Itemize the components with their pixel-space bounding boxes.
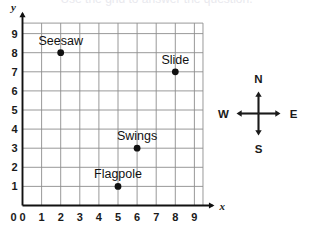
x-tick-labels: 0123456789 xyxy=(19,211,197,223)
compass-east-label: E xyxy=(290,108,298,120)
y-tick-label: 9 xyxy=(11,28,17,40)
x-tick-label: 2 xyxy=(58,211,64,223)
data-point-marker xyxy=(134,145,141,152)
compass-north-arrowhead xyxy=(255,92,261,97)
x-axis-label: x xyxy=(218,200,225,212)
compass-west-arrowhead xyxy=(237,110,242,116)
x-tick-label: 1 xyxy=(39,211,45,223)
y-tick-label: 0 xyxy=(10,211,16,223)
compass-south-arrowhead xyxy=(255,130,261,135)
x-tick-label: 0 xyxy=(19,211,25,223)
point-label: Slide xyxy=(161,53,189,67)
x-tick-label: 9 xyxy=(191,211,197,223)
y-tick-label: 7 xyxy=(11,66,17,78)
y-tick-label: 5 xyxy=(11,104,17,116)
y-tick-label: 8 xyxy=(11,47,17,59)
x-tick-label: 5 xyxy=(115,211,121,223)
x-tick-label: 8 xyxy=(172,211,178,223)
compass-rose: NSEW xyxy=(218,73,298,155)
x-tick-label: 7 xyxy=(153,211,159,223)
x-tick-label: 6 xyxy=(134,211,140,223)
y-tick-label: 3 xyxy=(11,142,17,154)
y-tick-label: 4 xyxy=(11,123,18,135)
y-tick-label: 2 xyxy=(11,161,17,173)
compass-west-label: W xyxy=(218,108,229,120)
point-label: Swings xyxy=(117,129,157,143)
point-label: Flagpole xyxy=(94,167,142,181)
x-axis-arrowhead xyxy=(209,202,215,208)
figure-canvas: 0123456789 0123456789 xy SeesawSlideSwin… xyxy=(0,0,313,229)
compass-north-label: N xyxy=(254,73,262,85)
x-tick-label: 3 xyxy=(77,211,83,223)
data-point-marker xyxy=(115,183,122,190)
data-point-marker xyxy=(172,68,179,75)
y-axis-label: y xyxy=(9,1,16,13)
y-tick-label: 1 xyxy=(11,180,17,192)
compass-east-arrowhead xyxy=(275,110,280,116)
point-label: Seesaw xyxy=(38,34,83,48)
y-axis-arrowhead xyxy=(19,12,25,18)
compass-south-label: S xyxy=(255,143,263,155)
data-point-marker xyxy=(57,49,64,56)
x-tick-label: 4 xyxy=(96,211,103,223)
y-tick-labels: 0123456789 xyxy=(10,28,18,223)
y-tick-label: 6 xyxy=(11,85,17,97)
coordinate-grid-figure: 0123456789 0123456789 xy SeesawSlideSwin… xyxy=(0,0,313,229)
